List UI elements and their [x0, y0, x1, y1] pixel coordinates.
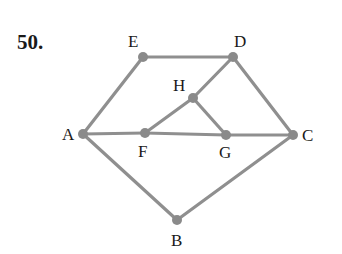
node-label-a: A [62, 125, 75, 144]
node-label-f: F [138, 142, 147, 161]
edge-d-h [193, 57, 233, 98]
node-label-d: D [234, 32, 246, 51]
edge-a-f [83, 133, 145, 134]
node-e [138, 52, 148, 62]
edge-a-e [83, 57, 143, 134]
edge-b-c [177, 135, 293, 220]
edge-h-g [193, 98, 226, 135]
node-g [221, 130, 231, 140]
node-label-e: E [128, 32, 138, 51]
edge-a-b [83, 134, 177, 220]
node-label-c: C [302, 126, 313, 145]
node-label-h: H [173, 76, 185, 95]
edge-f-g [145, 133, 226, 135]
edge-h-f [145, 98, 193, 133]
node-d [228, 52, 238, 62]
graph-labels: ABCDEFGH [62, 32, 313, 250]
node-a [78, 129, 88, 139]
node-f [140, 128, 150, 138]
node-label-b: B [171, 231, 182, 250]
node-c [288, 130, 298, 140]
node-b [172, 215, 182, 225]
graph-nodes [78, 52, 298, 225]
node-label-g: G [219, 143, 231, 162]
node-h [188, 93, 198, 103]
graph-diagram: ABCDEFGH [0, 0, 342, 254]
graph-edges [83, 57, 293, 220]
edge-d-c [233, 57, 293, 135]
